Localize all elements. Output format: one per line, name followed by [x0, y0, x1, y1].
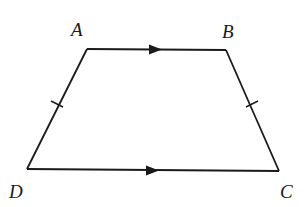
edge-da	[27, 49, 87, 169]
vertex-label-d: D	[8, 181, 23, 202]
parallel-arrow-icon-ab	[149, 45, 162, 55]
edge-bc	[226, 50, 279, 171]
vertex-label-a: A	[69, 19, 83, 40]
vertex-label-c: C	[280, 181, 293, 202]
trapezoid-diagram: A B D C	[0, 0, 306, 207]
vertex-label-b: B	[222, 21, 234, 42]
parallel-arrow-icon-dc	[146, 166, 159, 176]
trapezoid-shape	[27, 49, 279, 171]
